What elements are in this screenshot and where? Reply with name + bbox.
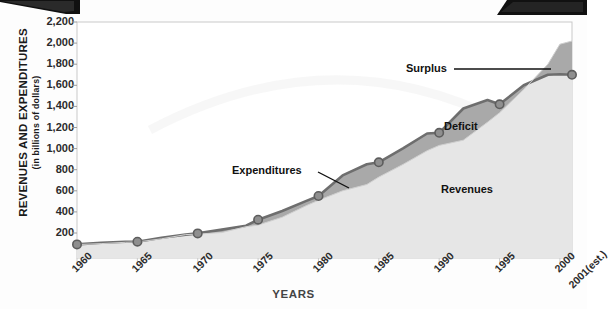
x-axis-tick-label: 1960 — [69, 249, 94, 274]
x-axis-tick-label: 1975 — [250, 249, 275, 274]
x-axis-tick-label: 1995 — [492, 249, 517, 274]
x-axis-tick-label: 1980 — [310, 249, 335, 274]
x-axis-title: YEARS — [0, 288, 587, 300]
x-axis-tick-label: 2000 — [552, 249, 577, 274]
x-axis-tick-label: 1985 — [371, 249, 396, 274]
x-axis-tick-label: 1965 — [129, 249, 154, 274]
x-axis-tick-label: 1990 — [431, 249, 456, 274]
x-axis-tick-label: 1970 — [190, 249, 215, 274]
